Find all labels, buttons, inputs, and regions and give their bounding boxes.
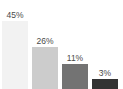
bar-rect [32,47,58,89]
bar-group-3: 11% [62,0,88,89]
bar-group-2: 26% [32,0,58,89]
bar-value-label: 3% [99,69,111,78]
bar-rect [92,79,118,89]
bar-value-label: 26% [36,37,53,46]
bar-value-label: 11% [67,54,83,63]
bar-rect [62,64,88,89]
bar-group-1: 45% [2,0,28,89]
bar-value-label: 45% [6,11,23,20]
bar-chart: 45% 26% 11% 3% [0,0,123,89]
bar-rect [2,21,28,89]
bar-group-4: 3% [92,0,118,89]
